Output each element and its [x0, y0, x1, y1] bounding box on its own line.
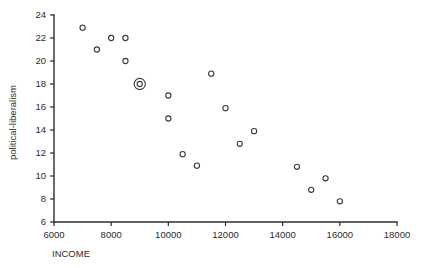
- y-tick-label: 12: [35, 147, 46, 158]
- x-axis-title: INCOME: [52, 248, 90, 259]
- data-point-marker: [294, 164, 299, 169]
- y-tick-label: 8: [41, 193, 46, 204]
- x-axis: 600080001000012000140001600018000: [43, 222, 410, 240]
- y-tick-label: 22: [35, 32, 46, 43]
- data-point-marker: [123, 58, 128, 63]
- data-point: [166, 116, 171, 121]
- y-tick-label: 20: [35, 55, 46, 66]
- data-point: [80, 25, 85, 30]
- x-tick-label: 12000: [212, 229, 238, 240]
- data-point-highlight-ring: [134, 78, 145, 89]
- y-tick-label: 24: [35, 9, 46, 20]
- x-tick-label: 8000: [101, 229, 122, 240]
- y-tick-label: 6: [41, 216, 46, 227]
- y-tick-label: 14: [35, 124, 46, 135]
- data-point: [223, 106, 228, 111]
- data-point: [123, 35, 128, 40]
- data-point-highlighted: [134, 78, 145, 89]
- data-point-marker: [209, 71, 214, 76]
- data-point: [294, 164, 299, 169]
- x-tick-label: 14000: [269, 229, 295, 240]
- data-point: [209, 71, 214, 76]
- data-point-marker: [323, 176, 328, 181]
- data-point-marker: [166, 116, 171, 121]
- data-point: [309, 187, 314, 192]
- data-point-marker: [194, 163, 199, 168]
- x-tick-label: 10000: [155, 229, 181, 240]
- data-point-marker: [137, 81, 142, 86]
- x-tick-label: 6000: [43, 229, 64, 240]
- data-point-marker: [80, 25, 85, 30]
- scatter-plot-figure: 681012141618202224 600080001000012000140…: [0, 0, 423, 268]
- data-point: [180, 152, 185, 157]
- data-point: [251, 129, 256, 134]
- x-tick-label: 16000: [327, 229, 353, 240]
- data-point: [323, 176, 328, 181]
- plot-canvas: 681012141618202224 600080001000012000140…: [0, 0, 423, 268]
- y-axis-title: political-liberalism: [7, 85, 18, 160]
- y-tick-label: 10: [35, 170, 46, 181]
- data-point-marker: [109, 35, 114, 40]
- x-axis-ticks: 600080001000012000140001600018000: [43, 222, 410, 240]
- data-point: [109, 35, 114, 40]
- data-point-marker: [337, 199, 342, 204]
- data-point-marker: [123, 35, 128, 40]
- data-point-marker: [94, 47, 99, 52]
- y-axis: 681012141618202224: [35, 9, 54, 227]
- data-point: [94, 47, 99, 52]
- data-point: [194, 163, 199, 168]
- y-tick-label: 16: [35, 101, 46, 112]
- data-point: [237, 141, 242, 146]
- data-point-marker: [309, 187, 314, 192]
- y-axis-ticks: 681012141618202224: [35, 9, 54, 227]
- data-point: [123, 58, 128, 63]
- y-tick-label: 18: [35, 78, 46, 89]
- data-point-marker: [180, 152, 185, 157]
- data-point: [166, 93, 171, 98]
- data-point-marker: [166, 93, 171, 98]
- data-point-marker: [223, 106, 228, 111]
- data-point-marker: [237, 141, 242, 146]
- data-point-marker: [251, 129, 256, 134]
- data-point-series: [80, 25, 342, 204]
- x-tick-label: 18000: [384, 229, 410, 240]
- data-point: [337, 199, 342, 204]
